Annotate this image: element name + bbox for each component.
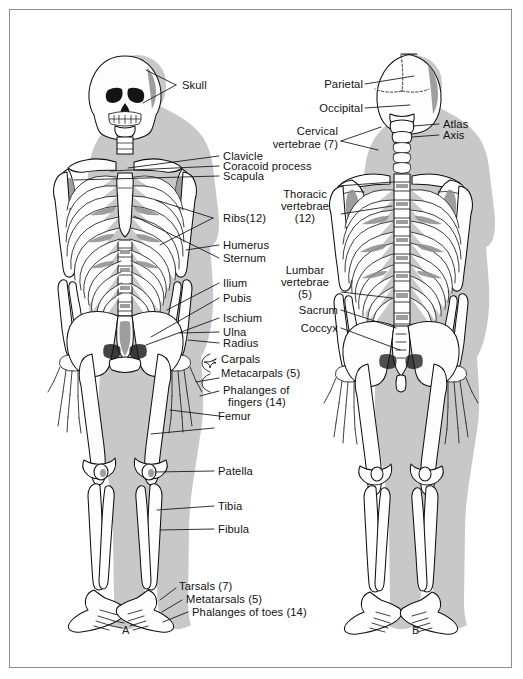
label-thoracic-vertebrae-line1: Thoracic (272, 188, 338, 201)
posterior-leader-lines (338, 76, 439, 350)
label-lumbar-vertebrae-line2: vertebrae (272, 276, 338, 289)
label-phalanges-toes: Phalanges of toes (14) (192, 606, 307, 619)
label-radius: Radius (223, 337, 258, 350)
label-cervical-vertebrae-line1: Cervical (255, 125, 338, 138)
label-tibia: Tibia (218, 500, 242, 513)
label-ilium: Ilium (223, 277, 247, 290)
label-sacrum: Sacrum (262, 304, 338, 317)
label-cervical-vertebrae-line2: vertebrae (7) (245, 138, 338, 151)
label-humerus: Humerus (223, 239, 269, 252)
label-metatarsals: Metatarsals (5) (186, 593, 262, 606)
label-phalanges-fingers-line1: Phalanges of (223, 384, 290, 397)
label-thoracic-vertebrae-line2: vertebrae (272, 200, 338, 213)
label-ribs: Ribs(12) (223, 212, 266, 225)
panel-letter-b: B (412, 624, 419, 636)
label-phalanges-fingers-line2: fingers (14) (228, 396, 286, 409)
brace-connectors (202, 354, 216, 392)
label-thoracic-vertebrae-line3: (12) (272, 212, 338, 225)
label-pubis: Pubis (223, 292, 252, 305)
label-parietal: Parietal (255, 78, 363, 91)
label-coccyx: Coccyx (262, 322, 338, 335)
label-tarsals: Tarsals (7) (179, 580, 232, 593)
label-axis: Axis (443, 129, 465, 142)
label-lumbar-vertebrae-line3: (5) (272, 288, 338, 301)
label-lumbar-vertebrae-line1: Lumbar (272, 264, 338, 277)
figure-page: Skull Clavicle Coracoid process Scapula … (0, 0, 523, 679)
label-sternum: Sternum (223, 252, 266, 265)
label-femur: Femur (218, 410, 251, 423)
label-ischium: Ischium (223, 312, 262, 325)
label-scapula: Scapula (223, 170, 264, 183)
label-metacarpals: Metacarpals (5) (221, 367, 300, 380)
label-carpals: Carpals (221, 353, 260, 366)
label-patella: Patella (218, 465, 253, 478)
anterior-leader-lines (74, 70, 219, 622)
label-skull: Skull (182, 79, 207, 92)
figure-frame: Skull Clavicle Coracoid process Scapula … (9, 9, 512, 668)
label-occipital: Occipital (255, 102, 363, 115)
label-fibula: Fibula (218, 523, 249, 536)
panel-letter-a: A (122, 624, 129, 636)
